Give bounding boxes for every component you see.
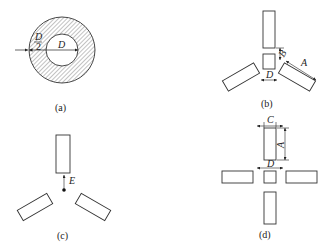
electrode-right	[75, 193, 110, 220]
label-d-d: D	[266, 158, 275, 169]
caption-a: (a)	[55, 102, 66, 114]
electrode-left	[222, 63, 259, 91]
label-ring-den: 2	[36, 41, 41, 52]
figure-canvas: D 2 D (a) B A D (b) E (c)	[0, 0, 328, 248]
label-a-b: A	[300, 57, 308, 68]
panel-a: D 2 D (a)	[15, 17, 95, 114]
electrode-left	[222, 171, 253, 183]
label-d-b: D	[265, 69, 274, 80]
electrode-left	[17, 193, 52, 220]
electrode-top	[263, 11, 275, 48]
caption-b: (b)	[261, 98, 273, 110]
label-inner-d: D	[57, 39, 66, 50]
center-square	[263, 54, 275, 69]
caption-c: (c)	[57, 230, 68, 242]
electrode-bottom	[264, 192, 276, 224]
center-point	[62, 188, 66, 192]
electrode-top	[56, 135, 70, 173]
label-e: E	[68, 175, 75, 186]
electrode-right	[278, 63, 315, 91]
caption-d: (d)	[259, 229, 271, 241]
label-a-d: A	[275, 141, 286, 149]
electrode-right	[286, 171, 317, 183]
label-b: B	[276, 48, 289, 59]
center-square	[264, 171, 276, 183]
label-c-d: C	[267, 114, 274, 125]
panel-d	[222, 128, 317, 224]
